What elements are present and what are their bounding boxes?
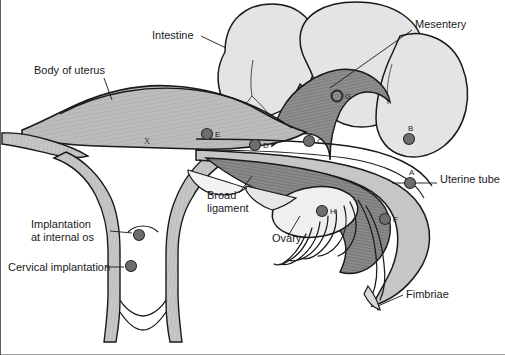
label-ovary: Ovary: [272, 232, 302, 244]
marker-letter-H: H: [330, 207, 336, 216]
label-implant-1: Implantation: [31, 218, 91, 230]
marker-letter-D: D: [263, 141, 269, 150]
marker-letter-B: B: [408, 124, 413, 133]
marker-letter-C: C: [317, 137, 323, 146]
marker-J[interactable]: [126, 261, 137, 272]
cavity-marker-x: X: [144, 136, 151, 146]
label-broad-lig-2: ligament: [207, 202, 249, 214]
diagram-canvas: ABCDEFGH IntestineMesenteryBody of uteru…: [0, 0, 505, 355]
marker-I[interactable]: [134, 230, 145, 241]
marker-letter-G: G: [345, 92, 351, 101]
marker-C[interactable]: C: [304, 136, 324, 147]
marker-dot-F[interactable]: [380, 214, 391, 225]
marker-letter-E: E: [215, 130, 220, 139]
marker-dot-E[interactable]: [202, 129, 213, 140]
label-implant-2: at internal os: [31, 231, 94, 243]
marker-F[interactable]: F: [380, 214, 399, 225]
label-uterine-tube: Uterine tube: [440, 173, 500, 185]
label-fimbriae: Fimbriae: [406, 288, 449, 300]
marker-dot-A[interactable]: [405, 178, 416, 189]
marker-dot-H[interactable]: [317, 206, 328, 217]
image-left-border: [0, 0, 1, 355]
label-mesentery: Mesentery: [415, 18, 467, 30]
marker-dot-J[interactable]: [126, 261, 137, 272]
label-intestine: Intestine: [152, 29, 194, 41]
marker-E[interactable]: E: [202, 129, 221, 140]
marker-letter-F: F: [393, 215, 398, 224]
ectopic-implantation-diagram: ABCDEFGH IntestineMesenteryBody of uteru…: [0, 0, 505, 355]
marker-dot-D[interactable]: [250, 140, 261, 151]
marker-D[interactable]: D: [250, 140, 270, 151]
label-broad-lig-1: Broad: [207, 189, 236, 201]
marker-dot-C[interactable]: [304, 136, 315, 147]
marker-dot-B[interactable]: [404, 134, 415, 145]
marker-dot-I[interactable]: [134, 230, 145, 241]
label-cervical: Cervical implantation: [8, 261, 110, 273]
label-body-uterus: Body of uterus: [34, 64, 105, 76]
marker-H[interactable]: H: [317, 206, 337, 217]
marker-letter-A: A: [409, 168, 415, 177]
